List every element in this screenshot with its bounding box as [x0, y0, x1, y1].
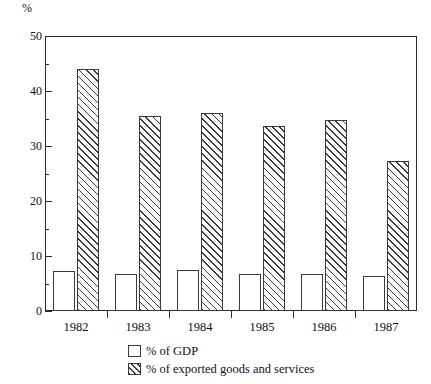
x-tick — [107, 311, 108, 318]
legend-swatch-gdp-icon — [128, 345, 141, 357]
bar-exported-goods — [387, 161, 409, 311]
x-tick — [293, 311, 294, 318]
legend-item-exported-goods: % of exported goods and services — [128, 360, 418, 378]
bar-gdp — [239, 274, 261, 311]
y-tick-minor — [45, 284, 49, 285]
x-tick-label-1982: 1982 — [64, 320, 89, 334]
y-tick-minor — [45, 64, 49, 65]
y-tick-label: 50 — [14, 30, 42, 42]
y-tick-label: 40 — [14, 85, 42, 97]
bars-layer — [45, 36, 417, 311]
bar-exported-goods — [325, 120, 347, 311]
legend-label-exported-goods: % of exported goods and services — [146, 362, 314, 376]
legend-item-gdp: % of GDP — [128, 342, 418, 360]
x-tick-label-1985: 1985 — [250, 320, 275, 334]
x-tick-label-1984: 1984 — [188, 320, 213, 334]
x-tick — [231, 311, 232, 318]
y-tick-label: 30 — [14, 140, 42, 152]
x-tick-label-1986: 1986 — [312, 320, 337, 334]
y-tick-minor — [45, 119, 49, 120]
bar-exported-goods — [263, 126, 285, 311]
chart-legend: % of GDP % of exported goods and service… — [128, 342, 418, 378]
bar-gdp — [363, 276, 385, 311]
bar-chart-figure: % 01020304050 198219831984198519861987 %… — [0, 0, 431, 384]
x-tick — [169, 311, 170, 318]
x-tick-label-1983: 1983 — [126, 320, 151, 334]
bar-exported-goods — [201, 113, 223, 311]
y-tick-minor — [45, 174, 49, 175]
y-tick-major — [45, 256, 52, 257]
bar-gdp — [301, 274, 323, 311]
legend-swatch-exported-goods-icon — [128, 363, 141, 375]
y-tick-major — [45, 36, 52, 37]
y-tick-label: 20 — [14, 195, 42, 207]
y-tick-major — [45, 146, 52, 147]
y-tick-major — [45, 201, 52, 202]
x-tick-label-1987: 1987 — [374, 320, 399, 334]
bar-gdp — [177, 270, 199, 311]
y-tick-major — [45, 91, 52, 92]
bar-exported-goods — [77, 69, 99, 311]
bar-exported-goods — [139, 116, 161, 311]
bar-gdp — [115, 274, 137, 311]
x-tick — [355, 311, 356, 318]
y-tick-label: 0 — [14, 305, 42, 317]
y-axis-labels: 01020304050 — [0, 0, 42, 384]
y-tick-minor — [45, 229, 49, 230]
y-tick-major — [45, 311, 52, 312]
y-tick-label: 10 — [14, 250, 42, 262]
legend-label-gdp: % of GDP — [146, 344, 198, 358]
x-axis-labels: 198219831984198519861987 — [45, 320, 417, 338]
bar-gdp — [53, 271, 75, 311]
